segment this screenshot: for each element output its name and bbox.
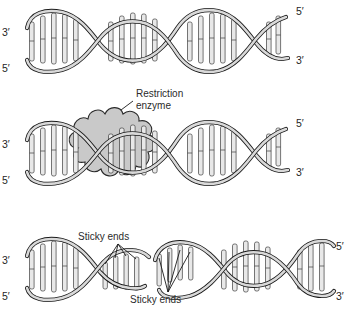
label-3prime-right-bottom-panel2: 3′ xyxy=(296,166,304,178)
label-5prime-left-bottom-panel3: 5′ xyxy=(2,290,10,302)
sticky-ends-label-right: Sticky ends xyxy=(130,294,181,305)
restriction-enzyme-label-line2: enzyme xyxy=(136,100,171,111)
label-5prime-right-top-panel1: 5′ xyxy=(296,5,304,17)
label-3prime-right-bottom-panel1: 3′ xyxy=(296,54,304,66)
sticky-ends-label-left: Sticky ends xyxy=(78,231,129,242)
restriction-enzyme-label-line1: Restriction xyxy=(136,88,183,99)
label-3prime-left-top-panel2: 3′ xyxy=(2,138,10,150)
label-5prime-right-top-panel3: 5′ xyxy=(336,240,344,252)
label-3prime-left-top-panel1: 3′ xyxy=(2,26,10,38)
label-5prime-left-bottom-panel1: 5′ xyxy=(2,62,10,74)
label-3prime-left-top-panel3: 3′ xyxy=(2,254,10,266)
label-5prime-right-top-panel2: 5′ xyxy=(296,117,304,129)
restriction-enzyme-diagram: 3′ 5′ 5′ 3′ Restriction enzyme xyxy=(0,0,347,310)
label-3prime-right-bottom-panel3: 3′ xyxy=(336,290,344,302)
label-5prime-left-bottom-panel2: 5′ xyxy=(2,174,10,186)
